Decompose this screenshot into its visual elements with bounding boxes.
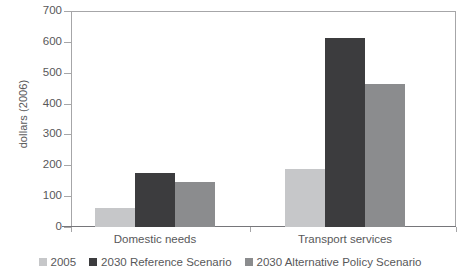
y-axis-tick bbox=[64, 227, 71, 228]
bar bbox=[95, 208, 135, 227]
legend-label: 2030 Reference Scenario bbox=[101, 256, 231, 268]
legend-label: 2005 bbox=[51, 256, 77, 268]
bar bbox=[325, 38, 365, 227]
legend-label: 2030 Alternative Policy Scenario bbox=[257, 256, 422, 268]
bar-chart: dollars (2006) 0100200300400500600700 Do… bbox=[0, 0, 460, 276]
x-axis-tick bbox=[456, 227, 457, 232]
bars-layer bbox=[0, 0, 460, 227]
bar bbox=[365, 84, 405, 227]
legend-swatch-icon bbox=[89, 258, 97, 266]
x-axis-category-label: Transport services bbox=[245, 233, 445, 245]
legend-swatch-icon bbox=[245, 258, 253, 266]
bar bbox=[285, 169, 325, 227]
legend-item[interactable]: 2005 bbox=[39, 256, 77, 268]
legend-item[interactable]: 2030 Reference Scenario bbox=[89, 256, 231, 268]
legend-swatch-icon bbox=[39, 258, 47, 266]
x-axis-tick bbox=[250, 227, 251, 232]
x-axis-category-label: Domestic needs bbox=[55, 233, 255, 245]
legend-item[interactable]: 2030 Alternative Policy Scenario bbox=[245, 256, 422, 268]
bar bbox=[135, 173, 175, 227]
chart-legend: 20052030 Reference Scenario2030 Alternat… bbox=[0, 256, 460, 268]
bar bbox=[175, 182, 215, 227]
x-axis-tick bbox=[71, 227, 72, 232]
